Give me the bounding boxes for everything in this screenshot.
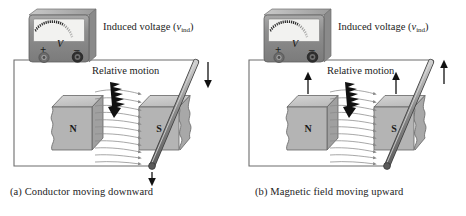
induced-voltage-subscript: ind bbox=[416, 26, 425, 34]
magnet-south-label: S bbox=[391, 123, 397, 134]
panel-a-conductor-moving-downward: N S bbox=[0, 0, 233, 216]
magnet-north: N bbox=[51, 95, 103, 150]
induced-voltage-label: Induced voltage (vind) bbox=[103, 21, 194, 34]
magnet-north-label: N bbox=[69, 123, 77, 134]
magnet-north: N bbox=[286, 96, 338, 151]
induction-figure: N S bbox=[0, 0, 466, 216]
magnet-south-label: S bbox=[156, 123, 162, 134]
induced-voltage-label: Induced voltage (vind) bbox=[338, 21, 429, 34]
panel-b-caption: (b) Magnetic field moving upward bbox=[233, 186, 466, 197]
induced-voltage-subscript: ind bbox=[181, 26, 190, 34]
meter-plus-sign-b: + bbox=[275, 43, 281, 55]
meter-minus-sign-b: – bbox=[309, 43, 315, 55]
panel-a-caption: (a) Conductor moving downward bbox=[0, 186, 233, 197]
relative-motion-label: Relative motion bbox=[327, 65, 394, 76]
magnet-north-label: N bbox=[304, 123, 312, 134]
meter-minus-sign-a: – bbox=[74, 43, 80, 55]
meter-unit-label-b: V bbox=[292, 38, 298, 49]
panel-b-magnetic-field-moving-upward: N S bbox=[233, 0, 466, 216]
meter-unit-label-a: V bbox=[57, 38, 63, 49]
relative-motion-label: Relative motion bbox=[92, 65, 159, 76]
meter-plus-sign-a: + bbox=[40, 43, 46, 55]
